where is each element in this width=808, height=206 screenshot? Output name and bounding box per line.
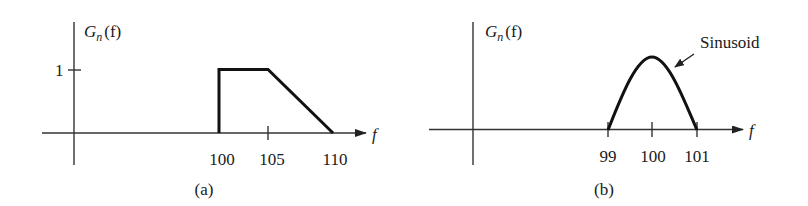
xlabel-b: f bbox=[749, 121, 756, 140]
panel-b: Sinusoid Gn(f) f 99 100 101 (b) bbox=[429, 22, 760, 199]
xtick-label-100b: 100 bbox=[640, 147, 666, 166]
xtick-label-99: 99 bbox=[600, 147, 617, 166]
xtick-label-110: 110 bbox=[323, 150, 348, 169]
caption-a: (a) bbox=[195, 180, 214, 199]
panel-a: Gn(f) 1 f 100 105 110 (a) bbox=[42, 22, 379, 199]
ylabel-a: Gn(f) bbox=[84, 22, 121, 44]
sinusoid-curve bbox=[608, 57, 697, 130]
caption-b: (b) bbox=[594, 180, 614, 199]
annotation-sinusoid: Sinusoid bbox=[700, 33, 760, 52]
annotation-arrow bbox=[675, 54, 694, 67]
trapezoid-curve bbox=[219, 70, 333, 134]
xtick-label-101: 101 bbox=[684, 147, 710, 166]
ylabel-b: Gn(f) bbox=[485, 22, 522, 44]
xtick-label-100: 100 bbox=[209, 150, 235, 169]
ytick-label-1: 1 bbox=[55, 61, 64, 80]
xtick-label-105: 105 bbox=[259, 150, 285, 169]
xlabel-a: f bbox=[372, 125, 379, 144]
figure-canvas: Gn(f) 1 f 100 105 110 (a) Sinusoid Gn(f)… bbox=[0, 0, 808, 206]
